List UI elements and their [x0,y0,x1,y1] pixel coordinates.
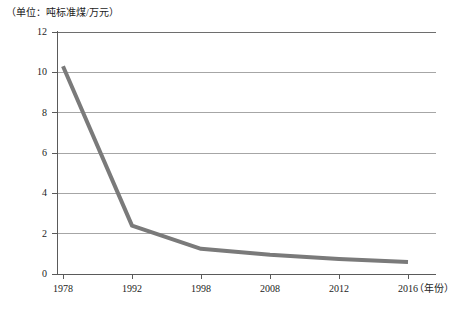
x-axis-spine [57,274,436,275]
y-tick-label-6: 6 [3,148,47,158]
gridline-y-10 [58,72,436,73]
x-tick-label-2012: 2012 [309,284,369,294]
gridline-y-6 [58,153,436,154]
x-tick-2008 [270,274,271,279]
x-tick-label-2008: 2008 [240,284,300,294]
y-tick-label-2: 2 [3,229,47,239]
y-tick-2 [52,233,58,234]
x-tick-1978 [63,274,64,279]
y-tick-10 [52,72,58,73]
chart-figure: （单位：吨标准煤/万元） 024681012 19781992199820082… [0,0,458,309]
y-tick-12 [52,32,58,33]
y-tick-0 [52,274,58,275]
x-tick-label-1992: 1992 [102,284,162,294]
y-tick-label-0: 0 [3,269,47,279]
y-tick-6 [52,153,58,154]
x-tick-label-1998: 1998 [171,284,231,294]
x-tick-2012 [339,274,340,279]
x-tick-label-1978: 1978 [33,284,93,294]
x-tick-2016 [408,274,409,279]
gridline-y-2 [58,233,436,234]
series-layer [0,0,458,309]
unit-caption: （单位：吨标准煤/万元） [6,4,119,19]
x-axis-title: （年份） [414,284,454,294]
gridline-y-12 [58,32,436,33]
x-tick-1998 [201,274,202,279]
y-tick-label-4: 4 [3,188,47,198]
gridline-y-8 [58,112,436,113]
gridline-y-4 [58,193,436,194]
y-tick-8 [52,112,58,113]
y-tick-label-8: 8 [3,108,47,118]
x-tick-1992 [132,274,133,279]
y-tick-label-10: 10 [3,67,47,77]
y-tick-label-12: 12 [3,27,47,37]
y-tick-4 [52,193,58,194]
